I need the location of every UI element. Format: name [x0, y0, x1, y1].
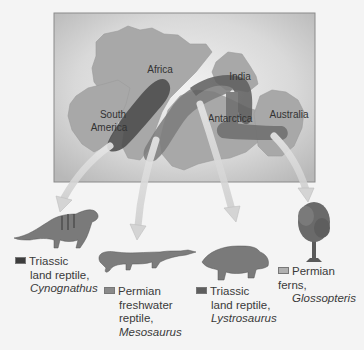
swatch-glossopteris [278, 267, 289, 274]
legend-mesosaurus: Permian freshwater reptile, Mesosaurus [104, 285, 182, 339]
swatch-mesosaurus [104, 287, 115, 294]
legend-description: freshwater [104, 299, 182, 313]
legend-description: land reptile, [196, 299, 277, 313]
legend-period: Triassic [29, 255, 68, 267]
label-antarctica: Antarctica [208, 113, 253, 124]
swatch-lystrosaurus [196, 287, 207, 294]
legend-cynognathus: Triassic land reptile, Cynognathus [15, 255, 98, 296]
legend-period: Permian [118, 285, 161, 297]
legend-glossopteris: Permian ferns, Glossopteris [278, 265, 364, 306]
arrowhead-cynognathus [56, 196, 72, 212]
legend-description: reptile, [104, 312, 182, 326]
label-india: India [229, 71, 251, 82]
legend-period: Triassic [210, 285, 249, 297]
cynognathus-illustration [14, 210, 98, 248]
lystrosaurus-illustration [202, 246, 269, 280]
swatch-cynognathus [15, 257, 26, 264]
legend-scientific-name: Glossopteris [278, 292, 364, 306]
label-australia: Australia [270, 109, 309, 120]
legend-description: land reptile, [15, 269, 98, 283]
legend-scientific-name: Lystrosaurus [196, 312, 277, 326]
arrowhead-lystrosaurus [224, 206, 240, 222]
glossopteris-illustration [298, 202, 330, 262]
mesosaurus-illustration [99, 250, 196, 272]
legend-scientific-name: Cynognathus [15, 282, 98, 296]
arrowhead-mesosaurus [130, 224, 146, 240]
label-africa: Africa [147, 64, 173, 75]
label-south-america-2: America [91, 122, 128, 133]
legend-scientific-name: Mesosaurus [104, 326, 182, 340]
legend-lystrosaurus: Triassic land reptile, Lystrosaurus [196, 285, 277, 326]
arrowhead-glossopteris [298, 188, 314, 202]
label-south-america-1: South [100, 109, 126, 120]
